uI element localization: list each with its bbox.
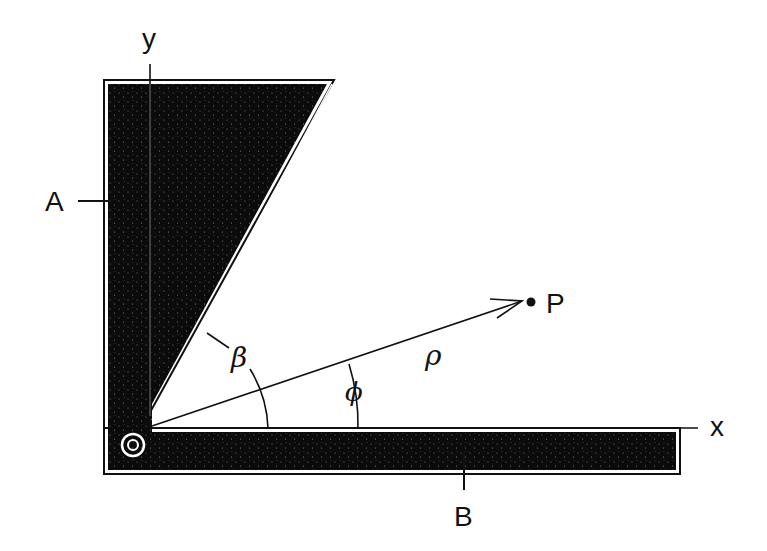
y-axis-label: y [142,23,156,54]
point-p-icon [527,298,536,307]
plate-b [104,412,680,474]
wedge-diagram: y x A B P β ϕ ρ [0,0,767,551]
x-axis-label: x [710,411,724,442]
rho-vector [152,299,522,426]
angle-beta-label: β [230,341,247,374]
angle-beta-arc [250,369,268,428]
point-p-label: P [546,288,565,319]
beta-leader [207,333,229,348]
plate-a-label: A [45,186,64,217]
diagram-canvas: y x A B P β ϕ ρ [0,0,767,551]
rho-label: ρ [424,339,442,372]
angle-phi-label: ϕ [345,377,363,407]
plate-b-label: B [454,501,473,532]
